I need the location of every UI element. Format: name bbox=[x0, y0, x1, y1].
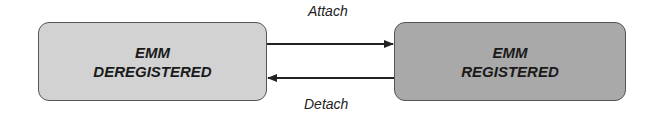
detach-label: Detach bbox=[304, 96, 348, 112]
attach-label: Attach bbox=[308, 3, 348, 19]
